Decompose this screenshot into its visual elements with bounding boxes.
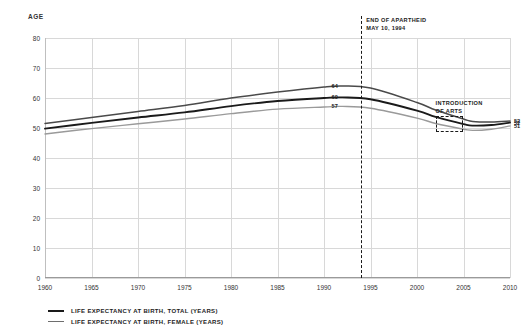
data-point-label: 64 [332, 83, 338, 89]
annotation-label-introduction-of-arts: INTRODUCTIONOF ARTS [436, 99, 483, 116]
series-lines [45, 38, 510, 278]
y-axis-tick: 60 [10, 95, 40, 102]
y-axis-tick-labels: 01020304050607080 [8, 38, 40, 278]
legend-label: LIFE EXPECTANCY AT BIRTH, FEMALE (YEARS) [71, 319, 223, 325]
x-axis-tick: 2000 [410, 284, 424, 291]
x-axis-tick: 1995 [363, 284, 377, 291]
x-axis-tick: 1975 [177, 284, 191, 291]
legend-swatch-icon [48, 321, 64, 322]
x-axis-tick: 1970 [131, 284, 145, 291]
annotation-box-introduction-of-arts [436, 116, 464, 132]
x-axis-tick: 2010 [503, 284, 517, 291]
x-axis-tick: 1990 [317, 284, 331, 291]
legend-label: LIFE EXPECTANCY AT BIRTH, TOTAL (YEARS) [71, 308, 218, 314]
chart-legend: LIFE EXPECTANCY AT BIRTH, TOTAL (YEARS)L… [48, 305, 478, 327]
x-axis-tick-labels: 1960196519701975198019851990199520002005… [45, 284, 510, 298]
legend-item: LIFE EXPECTANCY AT BIRTH, TOTAL (YEARS) [48, 305, 478, 316]
data-point-label: 60 [332, 94, 338, 100]
y-axis-title: AGE [28, 13, 44, 20]
x-axis-tick: 2005 [456, 284, 470, 291]
y-axis-tick: 20 [10, 215, 40, 222]
gridline-vertical [510, 38, 511, 278]
y-axis-tick: 10 [10, 245, 40, 252]
x-axis-tick: 1960 [38, 284, 52, 291]
x-axis-tick: 1965 [84, 284, 98, 291]
data-point-label: 57 [332, 103, 338, 109]
life-expectancy-chart: AGE 01020304050607080 196019651970197519… [0, 0, 526, 332]
legend-swatch-icon [48, 310, 64, 312]
x-axis-tick: 1985 [270, 284, 284, 291]
annotation-label-end-of-apartheid: END OF APARTHEIDMAY 10, 1994 [366, 16, 426, 33]
annotation-vline-end-of-apartheid [361, 16, 362, 278]
y-axis-tick: 0 [10, 275, 40, 282]
y-axis-tick: 70 [10, 65, 40, 72]
y-axis-tick: 40 [10, 155, 40, 162]
data-point-label: 51 [514, 123, 520, 129]
legend-item: LIFE EXPECTANCY AT BIRTH, FEMALE (YEARS) [48, 316, 478, 327]
x-axis-tick: 1980 [224, 284, 238, 291]
plot-area: END OF APARTHEIDMAY 10, 1994INTRODUCTION… [45, 38, 510, 278]
y-axis-tick: 50 [10, 125, 40, 132]
y-axis-tick: 30 [10, 185, 40, 192]
gridline-horizontal [45, 278, 510, 279]
y-axis-tick: 80 [10, 35, 40, 42]
